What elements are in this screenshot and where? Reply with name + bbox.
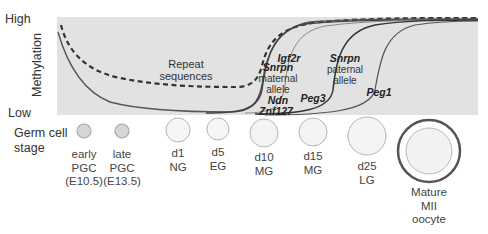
cell-d15-mg [299, 118, 327, 146]
cell-early-pgc [77, 124, 91, 138]
cell-late-pgc [115, 124, 129, 138]
cell-d1-ng [166, 118, 190, 142]
cell-label-mature-mii-oocyte: Mature MII oocyte [399, 186, 459, 227]
cell-mii-oocyte [406, 128, 452, 174]
label-peg1: Peg1 [366, 86, 391, 98]
label-maternal: maternal [259, 73, 298, 84]
cell-d5-eg [207, 118, 229, 140]
label-peg3: Peg3 [300, 92, 325, 104]
cell-label-d15-mg: d15 MG [283, 150, 343, 177]
label-repeat: Repeat [168, 58, 203, 70]
label-snrpn-paternal: Snrpn [330, 52, 360, 64]
cell-label-d25-lg: d25 LG [337, 160, 397, 187]
cell-d10-mg [250, 119, 278, 147]
label-sequences: sequences [159, 70, 213, 82]
label-snrpn-maternal: Snrpn [263, 61, 293, 73]
stage-title-line2: stage [14, 141, 45, 156]
label-paternal-allele: allele [333, 75, 357, 86]
stage-title-line1: Germ cell [14, 126, 67, 141]
label-znf127: Znf127 [258, 105, 294, 117]
cell-d25-lg [348, 117, 386, 155]
label-paternal: paternal [327, 64, 363, 75]
cell-label-late-pgc: late PGC (E13.5) [92, 148, 152, 189]
